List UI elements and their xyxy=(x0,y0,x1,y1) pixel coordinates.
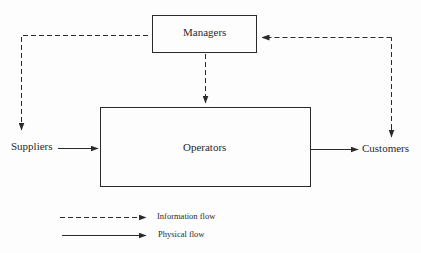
operators-label: Operators xyxy=(183,141,226,153)
managers-label: Managers xyxy=(183,26,226,38)
legend-information-label: Information flow xyxy=(157,211,215,221)
suppliers-label: Suppliers xyxy=(11,140,53,152)
flow-diagram: Managers Operators Suppliers Customers I… xyxy=(0,0,421,253)
customers-label: Customers xyxy=(362,142,409,154)
legend-physical-label: Physical flow xyxy=(158,229,205,239)
info-flow-managers-to-suppliers xyxy=(22,36,149,131)
